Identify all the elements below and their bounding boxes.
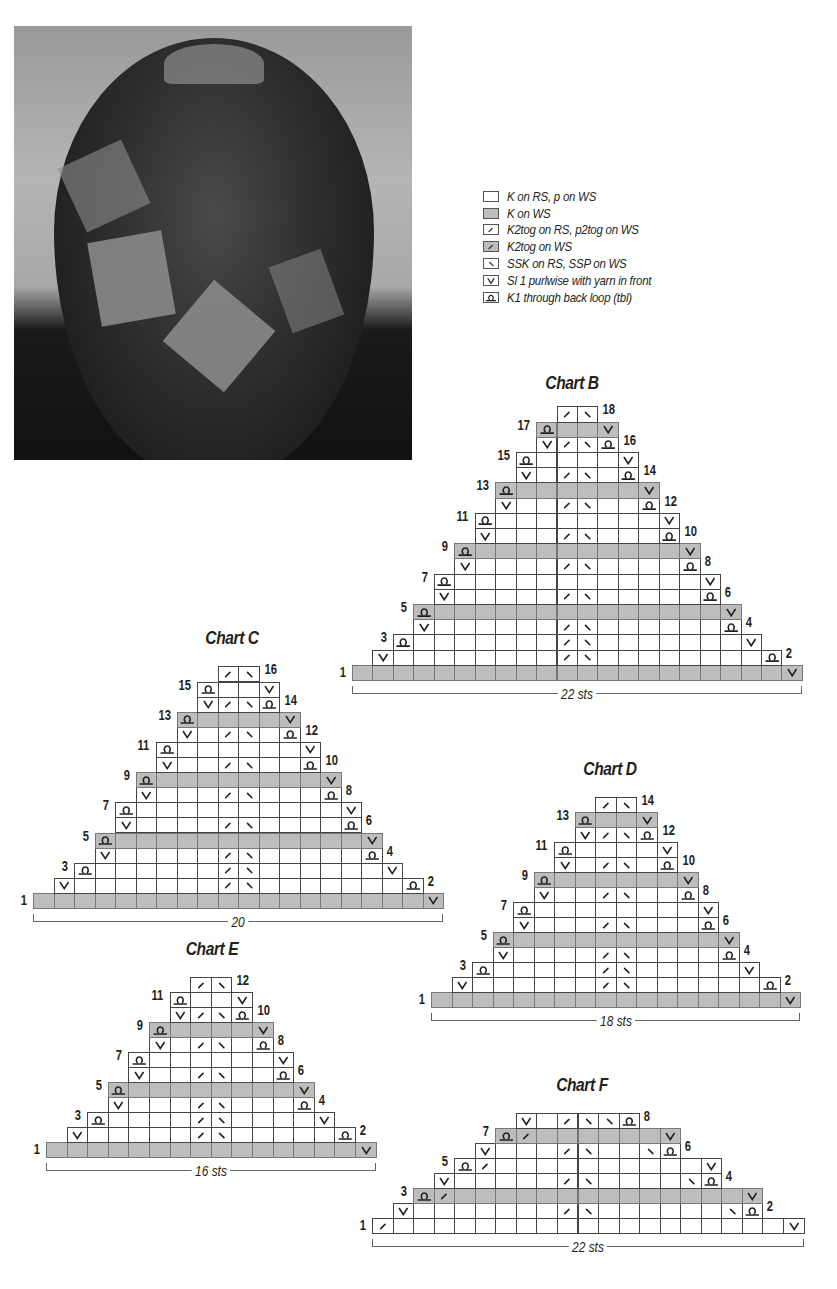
chart-cell bbox=[618, 498, 639, 514]
slip-stitch-icon bbox=[301, 743, 321, 757]
twisted-stitch-icon bbox=[598, 438, 617, 452]
chart-cell bbox=[718, 947, 740, 963]
chart-cell bbox=[639, 1203, 661, 1219]
chart-cell bbox=[238, 666, 260, 682]
chart-cell bbox=[595, 917, 617, 933]
chart-cell bbox=[679, 634, 700, 650]
chart-cell bbox=[595, 827, 617, 843]
row-number: 8 bbox=[277, 1032, 283, 1048]
ssk-icon bbox=[483, 258, 499, 269]
chart-cell bbox=[618, 574, 639, 590]
chart-cell bbox=[259, 848, 281, 864]
chart-cell bbox=[578, 1143, 600, 1159]
chart-cell bbox=[177, 772, 199, 788]
twisted-stitch-icon bbox=[342, 818, 362, 832]
twisted-stitch-icon bbox=[661, 1144, 681, 1158]
chart-cell bbox=[190, 977, 212, 993]
slip-stitch-icon bbox=[435, 590, 454, 604]
slip-stitch-icon bbox=[494, 948, 514, 962]
chart-cell bbox=[657, 917, 679, 933]
chart-cell bbox=[619, 1158, 641, 1174]
chart-cell bbox=[536, 1188, 558, 1204]
ssk-icon bbox=[239, 864, 259, 878]
chart-cell bbox=[636, 887, 658, 903]
chart-cell bbox=[170, 1022, 192, 1038]
chart-cell bbox=[557, 1173, 579, 1189]
chart-cell bbox=[597, 589, 618, 605]
chart-cell bbox=[575, 872, 597, 888]
twisted-stitch-icon bbox=[335, 1128, 355, 1142]
chart-cell bbox=[680, 1188, 702, 1204]
chart-cell bbox=[382, 878, 404, 894]
k2tog-icon bbox=[219, 758, 239, 772]
k2tog-icon bbox=[219, 864, 239, 878]
chart-cell bbox=[300, 817, 322, 833]
row-number: 10 bbox=[326, 752, 338, 768]
chart-cell bbox=[300, 863, 322, 879]
row-number: 12 bbox=[237, 972, 249, 988]
chart-cell bbox=[170, 1097, 192, 1113]
chart-cell bbox=[149, 1127, 171, 1143]
chart-cell bbox=[534, 917, 556, 933]
chart-cell bbox=[413, 634, 434, 650]
chart-cell bbox=[554, 902, 576, 918]
twisted-stitch-icon bbox=[403, 879, 423, 893]
chart-cell bbox=[252, 1067, 274, 1083]
row-number: 15 bbox=[497, 447, 509, 463]
ssk-icon bbox=[617, 963, 637, 977]
chart-cell bbox=[557, 528, 578, 544]
row-number: 10 bbox=[683, 852, 695, 868]
slip-stitch-icon bbox=[356, 1143, 376, 1157]
twisted-stitch-icon bbox=[678, 888, 698, 902]
k2tog-icon bbox=[558, 407, 577, 421]
twisted-stitch-icon bbox=[260, 698, 280, 712]
twisted-stitch-icon bbox=[496, 1129, 516, 1143]
row-number: 6 bbox=[725, 584, 731, 600]
row-number: 2 bbox=[767, 1198, 773, 1214]
chart-cell bbox=[259, 757, 281, 773]
chart-cell bbox=[128, 1112, 150, 1128]
chart-cell bbox=[252, 1082, 274, 1098]
chart-cell bbox=[659, 528, 680, 544]
slip-stitch-icon bbox=[537, 438, 556, 452]
chart-cell bbox=[259, 697, 281, 713]
chart-cell bbox=[108, 1112, 130, 1128]
row-number: 1 bbox=[34, 1141, 40, 1157]
chart-cell bbox=[259, 727, 281, 743]
k2tog-icon bbox=[596, 858, 616, 872]
k2tog-icon bbox=[558, 620, 577, 634]
chart-cell bbox=[273, 1082, 295, 1098]
chart-cell bbox=[372, 665, 393, 681]
chart-cell bbox=[87, 1112, 109, 1128]
chart-cell bbox=[718, 962, 740, 978]
chart-cell bbox=[136, 772, 158, 788]
chart-cell bbox=[720, 665, 741, 681]
twisted-stitch-icon bbox=[637, 828, 657, 842]
chart-cell bbox=[475, 619, 496, 635]
chart-cell bbox=[475, 543, 496, 559]
chart-cell bbox=[618, 650, 639, 666]
chart-cell bbox=[516, 543, 537, 559]
chart-cell bbox=[618, 467, 639, 483]
chart-cell bbox=[495, 1188, 517, 1204]
chart-cell bbox=[557, 1218, 579, 1234]
chart-cell bbox=[657, 902, 679, 918]
chart-cell bbox=[95, 893, 117, 909]
chart-cell bbox=[273, 1127, 295, 1143]
chart-cell bbox=[156, 787, 178, 803]
row-number: 16 bbox=[264, 661, 276, 677]
chart-title: Chart B bbox=[539, 372, 605, 394]
stitch-count: 20 bbox=[228, 914, 248, 930]
chart-cell bbox=[495, 665, 516, 681]
chart-cell bbox=[595, 902, 617, 918]
chart-cell bbox=[739, 962, 761, 978]
chart-cell bbox=[74, 878, 96, 894]
slip-stitch-icon bbox=[701, 575, 720, 589]
chart-cell bbox=[513, 902, 535, 918]
k2tog-icon bbox=[435, 1189, 455, 1203]
chart-cell bbox=[598, 1203, 620, 1219]
chart-cell bbox=[721, 1188, 743, 1204]
chart-cell bbox=[680, 1218, 702, 1234]
chart-cell bbox=[616, 797, 638, 813]
k2tog-icon bbox=[558, 651, 577, 665]
